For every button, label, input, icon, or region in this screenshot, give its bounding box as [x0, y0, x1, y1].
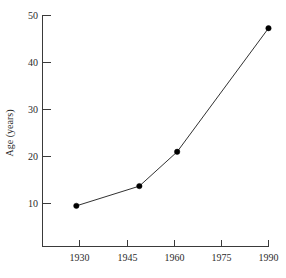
x-tick-label-1990: 1990: [259, 252, 279, 263]
y-tick-label-40: 40: [28, 57, 38, 68]
x-tick-label-1930: 1930: [70, 252, 90, 263]
x-tick-label-1975: 1975: [212, 252, 232, 263]
y-tick-label-10: 10: [28, 198, 38, 209]
data-point: [137, 183, 142, 188]
data-point-group: [74, 25, 272, 208]
chart-page: 50 40 30 20 10 1930 1945 1960 1975 1990 …: [0, 0, 286, 278]
x-tick-label-1945: 1945: [118, 252, 138, 263]
data-point: [266, 25, 271, 30]
y-tick-label-50: 50: [28, 10, 38, 21]
data-line-age: [76, 28, 268, 206]
y-tick-label-30: 30: [28, 104, 38, 115]
data-point: [74, 203, 79, 208]
line-chart: 50 40 30 20 10 1930 1945 1960 1975 1990 …: [0, 0, 286, 278]
data-point: [174, 149, 179, 154]
y-axis-title: Age (years): [4, 110, 16, 157]
x-tick-label-1960: 1960: [165, 252, 185, 263]
y-tick-label-20: 20: [28, 151, 38, 162]
